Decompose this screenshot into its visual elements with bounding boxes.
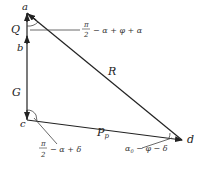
arrow-R — [28, 14, 36, 20]
segment-Q-label: Q — [11, 23, 20, 36]
segment-b-label: b — [17, 42, 23, 53]
angle-label-a: π 2 − α + φ + α — [82, 21, 143, 39]
svg-text:α0 − φ − δ: α0 − φ − δ — [125, 144, 168, 154]
force-triangle-diagram: a c d Q b G R Pp π 2 − α + φ + α π 2 − α… — [0, 0, 202, 173]
angle-label-c: π 2 − α + δ — [39, 140, 81, 159]
svg-text:2: 2 — [40, 151, 46, 159]
svg-text:π: π — [83, 21, 89, 29]
svg-text:− α + φ + α: − α + φ + α — [93, 26, 143, 35]
segment-Pp-label: Pp — [96, 126, 109, 140]
angle-arc-a — [27, 22, 38, 26]
svg-text:π: π — [40, 140, 46, 148]
vertex-a-label: a — [22, 1, 28, 12]
segment-R-label: R — [107, 65, 116, 78]
vertex-d-label: d — [187, 133, 194, 146]
svg-text:2: 2 — [83, 31, 89, 39]
angle-arc-d — [169, 133, 170, 138]
angle-label-d: α0 − φ − δ — [125, 144, 168, 154]
svg-text:− α + δ: − α + δ — [50, 145, 81, 154]
segment-G-label: G — [12, 86, 21, 99]
vertex-c-label: c — [20, 118, 26, 129]
